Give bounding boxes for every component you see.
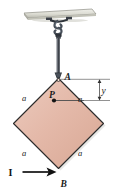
cable-icon [57,38,60,76]
ceiling-plate-icon [24,9,96,22]
dimension-arrow-up-icon [98,79,102,83]
statics-figure: A B P I y a a a a [0,0,117,191]
label-point-b: B [60,179,67,189]
clevis-at-a-icon [55,73,62,79]
label-point-a: A [64,72,71,82]
square-plate-icon [14,79,106,171]
label-side-top-right: a [78,94,82,104]
pin-hole-at-a-icon [57,79,60,82]
label-dimension-y: y [101,86,107,96]
label-side-bottom-right: a [78,148,82,158]
dimension-arrow-down-icon [98,97,102,101]
label-point-p: P [49,90,55,100]
figure-canvas: A B P I y a a a a [0,0,117,191]
label-side-top-left: a [22,93,26,103]
label-force-i: I [9,167,13,178]
force-arrow-icon [23,168,57,177]
label-side-bottom-left: a [22,148,26,158]
